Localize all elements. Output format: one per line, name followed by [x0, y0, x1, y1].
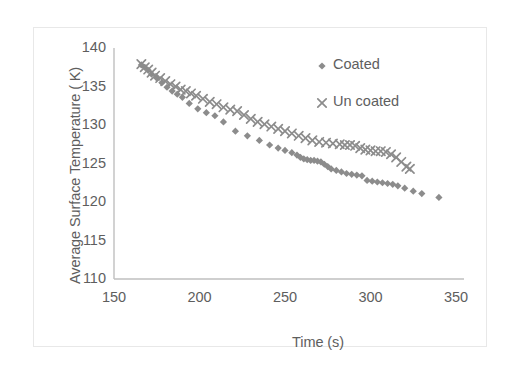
- x-axis-title: Time (s): [147, 334, 489, 350]
- data-point: [232, 128, 239, 135]
- data-point: [267, 122, 275, 130]
- y-axis-title: Average Surface Temperature ( K): [67, 84, 83, 284]
- data-point: [186, 100, 193, 107]
- data-point: [435, 194, 442, 201]
- data-point: [281, 127, 289, 135]
- x-tick-label: 150: [94, 289, 134, 305]
- legend-label: Un coated: [333, 93, 399, 109]
- data-point: [410, 188, 417, 195]
- y-tick-label: 120: [72, 193, 106, 209]
- x-tick-label: 200: [180, 289, 220, 305]
- data-point: [281, 147, 288, 154]
- x-tick-label: 350: [436, 289, 476, 305]
- data-point: [358, 172, 365, 179]
- data-point: [256, 137, 263, 144]
- data-point: [288, 129, 296, 137]
- y-tick-label: 110: [72, 270, 106, 286]
- data-point: [406, 165, 414, 173]
- data-point: [294, 132, 302, 140]
- y-tick-label: 140: [72, 39, 106, 55]
- chart-plot-frame: Average Surface Temperature ( K) Time (s…: [33, 27, 487, 347]
- chart-figure: Average Surface Temperature ( K) Time (s…: [0, 0, 507, 372]
- data-point: [401, 185, 408, 192]
- data-point: [275, 145, 282, 152]
- legend-marker-x: [318, 99, 326, 107]
- x-tick-label: 300: [351, 289, 391, 305]
- y-tick-label: 125: [72, 155, 106, 171]
- series-un-coated: [137, 60, 414, 173]
- legend-marker-diamond: [318, 62, 325, 69]
- data-point: [244, 132, 251, 139]
- y-tick-label: 135: [72, 78, 106, 94]
- x-tick-label: 250: [265, 289, 305, 305]
- legend-label: Coated: [333, 56, 380, 72]
- y-tick-label: 115: [72, 232, 106, 248]
- data-point: [301, 134, 309, 142]
- data-point: [418, 190, 425, 197]
- data-point: [220, 118, 227, 125]
- data-point: [260, 120, 268, 128]
- data-point: [194, 105, 201, 112]
- data-point: [203, 109, 210, 116]
- data-point: [266, 141, 273, 148]
- data-point: [274, 125, 282, 133]
- y-tick-label: 130: [72, 116, 106, 132]
- data-point: [211, 112, 218, 119]
